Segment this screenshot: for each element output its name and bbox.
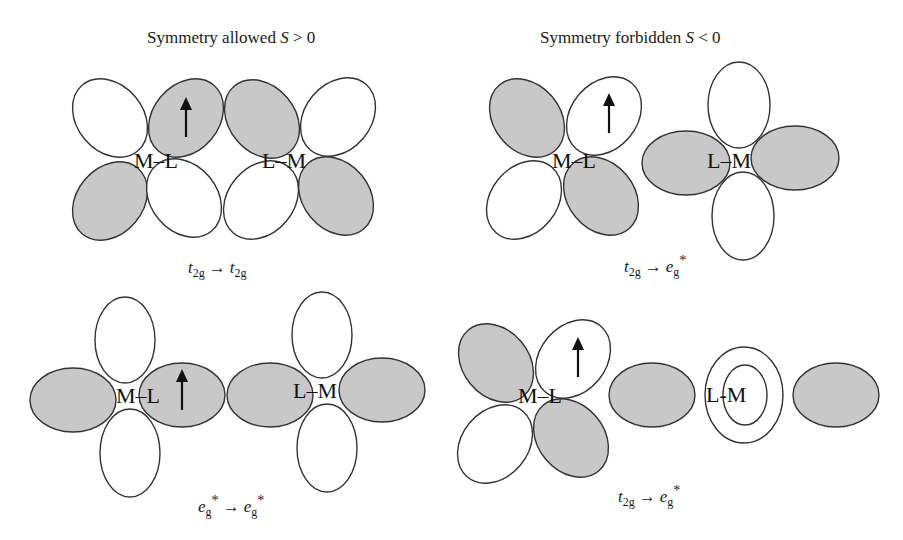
bond-label-m-l: M–L — [552, 148, 596, 173]
transition-arrow-icon: → — [639, 487, 656, 506]
lobe-open — [100, 409, 160, 497]
bond-label-l-m: L-M — [706, 382, 746, 407]
lobe-open — [708, 62, 770, 148]
bond-label-m-l: M–L — [518, 383, 562, 408]
panel-bottom-right-orbitals — [442, 305, 879, 498]
orbital-diagram: M–L L–M M–L L–M M–L L–M M–L L-M — [0, 0, 903, 540]
lobe-open — [712, 172, 774, 260]
term-superscript: * — [679, 252, 686, 268]
transition-arrow-icon: → — [209, 258, 226, 277]
bond-label-l-m: L–M — [707, 148, 751, 173]
transition-arrow-icon: → — [223, 497, 240, 516]
lobe-shaded — [609, 363, 695, 427]
panel-top-left-orbitals — [57, 63, 391, 255]
term-subscript: 2g — [629, 265, 641, 279]
caption-bottom-left: eg*→eg* — [198, 492, 264, 520]
term-superscript: * — [257, 492, 264, 508]
transition-arrow-icon: → — [645, 257, 662, 276]
term-symbol: e — [198, 497, 206, 516]
term-subscript: 2g — [234, 266, 246, 280]
panel-bottom-left-orbitals — [30, 292, 425, 497]
lobe-open — [297, 404, 357, 492]
lobe-shaded — [30, 368, 116, 432]
term-superscript: * — [212, 492, 219, 508]
lobe-open — [95, 297, 155, 383]
bond-label-l-m: L–M — [293, 378, 337, 403]
caption-top-left: t2g→t2g — [188, 258, 246, 281]
caption-top-right: t2g→eg* — [624, 252, 686, 280]
bond-label-m-l: M–L — [116, 383, 160, 408]
term-superscript: * — [673, 482, 680, 498]
caption-bottom-right: t2g→eg* — [618, 482, 680, 510]
lobe-shaded — [751, 126, 839, 190]
lobe-shaded — [339, 358, 425, 422]
panel-top-right-orbitals — [471, 62, 839, 260]
bond-label-l-m: L–M — [262, 148, 306, 173]
lobe-open — [292, 292, 352, 378]
bond-label-m-l: M–L — [134, 148, 178, 173]
term-subscript: 2g — [193, 266, 205, 280]
term-subscript: 2g — [623, 495, 635, 509]
lobe-shaded — [793, 363, 879, 427]
